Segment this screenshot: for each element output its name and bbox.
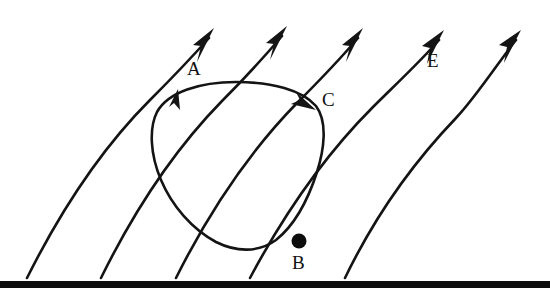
point-b-marker <box>292 234 307 249</box>
field-label-e: E <box>427 51 439 70</box>
field-lines-diagram <box>0 0 550 294</box>
loop-label-b: B <box>292 253 305 272</box>
loop-label-c: C <box>322 90 335 109</box>
bottom-divider-bar <box>0 281 550 288</box>
loop-label-a: A <box>187 59 201 78</box>
